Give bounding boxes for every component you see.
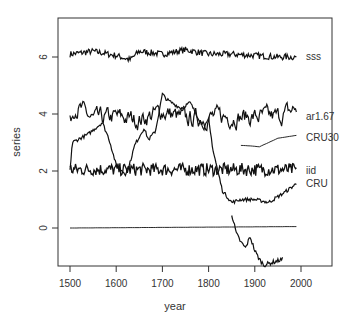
series-line-iid bbox=[70, 163, 296, 176]
series-line--zero-line- bbox=[70, 227, 296, 228]
y-tick-label: 0 bbox=[38, 225, 49, 231]
y-axis: 0246 bbox=[38, 54, 58, 231]
series-label: iid bbox=[306, 165, 316, 176]
y-axis-label: series bbox=[10, 127, 22, 157]
x-tick-label: 1700 bbox=[151, 278, 174, 289]
x-tick-label: 2000 bbox=[290, 278, 313, 289]
series-line-sss bbox=[70, 47, 296, 61]
x-tick-label: 1900 bbox=[244, 278, 267, 289]
chart: 0246 150016001700180019002000 sssar1.67C… bbox=[0, 0, 354, 329]
x-tick-label: 1600 bbox=[105, 278, 128, 289]
series-label: CRU bbox=[306, 178, 328, 189]
y-tick-label: 4 bbox=[38, 111, 49, 117]
series-line--unlabeled-descending- bbox=[232, 216, 283, 267]
series-label: sss bbox=[306, 51, 321, 62]
y-tick-label: 2 bbox=[38, 168, 49, 174]
series-label: CRU30 bbox=[306, 132, 339, 143]
series-line-CRU30 bbox=[241, 135, 297, 146]
x-tick-label: 1500 bbox=[59, 278, 82, 289]
series-lines bbox=[70, 47, 296, 267]
x-axis: 150016001700180019002000 bbox=[59, 266, 313, 289]
series-labels: sssar1.67CRU30iidCRU bbox=[306, 51, 339, 189]
y-tick-label: 6 bbox=[38, 54, 49, 60]
series-label: ar1.67 bbox=[306, 111, 335, 122]
x-axis-label: year bbox=[164, 300, 186, 312]
x-tick-label: 1800 bbox=[197, 278, 220, 289]
